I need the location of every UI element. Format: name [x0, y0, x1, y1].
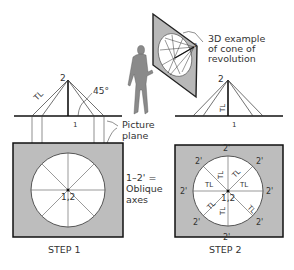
angle-label: 45°: [93, 86, 109, 96]
step1-tl-label: TL: [31, 89, 45, 103]
step2-plan: 1,2 2' 2' 2' 2' 2' 2' 2' 2' TL TL TL TL …: [175, 144, 283, 255]
svg-text:Picture: Picture: [122, 119, 155, 130]
svg-text:Oblique: Oblique: [126, 183, 163, 194]
svg-text:TL: TL: [217, 171, 225, 180]
svg-text:2': 2': [195, 157, 202, 166]
3d-example-plane: 2: [152, 14, 197, 97]
svg-text:TL: TL: [219, 104, 227, 113]
svg-text:TL: TL: [204, 181, 213, 189]
svg-text:axes: axes: [126, 194, 148, 205]
svg-text:plane: plane: [122, 130, 149, 141]
step1-plan: 1,2 STEP 1: [13, 143, 123, 255]
oblique-axes-annotation: 1–2' = Oblique axes: [126, 172, 163, 205]
svg-text:2': 2': [193, 218, 200, 227]
3d-example-annotation: 3D example of cone of revolution: [208, 33, 265, 64]
svg-text:2: 2: [218, 74, 224, 84]
step1-base-label: 1: [73, 121, 77, 129]
angle-arc: [78, 100, 86, 116]
svg-text:TL: TL: [239, 181, 248, 189]
svg-text:2': 2': [180, 187, 187, 196]
svg-text:2': 2': [256, 218, 263, 227]
step2-caption: STEP 2: [209, 244, 242, 255]
svg-text:1: 1: [232, 121, 236, 129]
svg-text:1,2: 1,2: [221, 193, 235, 203]
step1-center-label: 1,2: [61, 192, 75, 202]
svg-text:2': 2': [223, 233, 230, 242]
svg-text:2': 2': [223, 144, 230, 153]
step1-caption: STEP 1: [48, 244, 81, 255]
cone-of-revolution-diagram: 2 3D example of cone of revolution 45° 2…: [0, 0, 294, 270]
annotation-line-3: revolution: [208, 53, 256, 64]
step1-apex-label: 2: [60, 73, 66, 83]
picture-plane-annotation: Picture plane: [107, 119, 155, 143]
svg-text:TL: TL: [219, 207, 227, 216]
svg-text:2': 2': [256, 157, 263, 166]
svg-text:2': 2': [266, 187, 273, 196]
human-figure-icon: [128, 46, 153, 115]
plane-apex-label: 2: [194, 42, 197, 48]
svg-text:1–2' =: 1–2' =: [126, 172, 156, 183]
